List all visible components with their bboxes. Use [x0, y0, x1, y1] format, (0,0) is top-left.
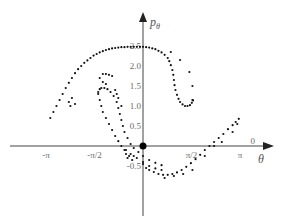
- data-point: [123, 149, 125, 151]
- y-tick-label: 0.5: [130, 121, 142, 131]
- data-point: [142, 161, 144, 163]
- data-point: [173, 84, 175, 86]
- y-axis-label: pθ: [149, 15, 160, 31]
- phase-portrait-chart: -π-π/2π/2π0 2.52.01.51.00.5-0.5 θ pθ: [0, 0, 283, 224]
- data-point: [199, 154, 201, 156]
- data-point: [77, 68, 79, 70]
- data-point: [136, 46, 138, 48]
- series-lower-scattered: [164, 123, 239, 179]
- y-axis-arrow-icon: [139, 12, 147, 22]
- data-point: [177, 98, 179, 100]
- data-point: [100, 105, 102, 107]
- data-point: [125, 153, 127, 155]
- data-point: [108, 74, 110, 76]
- data-point: [189, 104, 191, 106]
- data-point: [221, 141, 223, 143]
- data-point: [191, 85, 193, 87]
- data-point: [168, 60, 170, 62]
- data-point: [102, 50, 104, 52]
- data-point: [184, 105, 186, 107]
- data-point: [218, 137, 220, 139]
- data-point: [102, 111, 104, 113]
- data-point: [142, 46, 144, 48]
- data-point: [213, 145, 215, 147]
- data-point: [97, 91, 99, 93]
- data-point: [222, 133, 224, 135]
- data-point: [154, 162, 156, 164]
- data-point: [52, 111, 54, 113]
- data-point: [191, 169, 193, 171]
- data-point: [119, 113, 121, 115]
- data-point: [173, 79, 175, 81]
- data-point: [194, 158, 196, 160]
- data-point: [170, 64, 172, 66]
- data-point: [58, 99, 60, 101]
- data-point: [68, 82, 70, 84]
- data-point: [102, 73, 104, 75]
- data-point: [123, 131, 125, 133]
- data-point: [164, 54, 166, 56]
- data-point: [171, 69, 173, 71]
- data-point: [116, 93, 118, 95]
- data-point: [130, 46, 132, 48]
- data-point: [99, 51, 101, 53]
- data-point: [204, 155, 206, 157]
- data-point: [182, 173, 184, 175]
- data-point: [120, 105, 122, 107]
- data-point: [128, 155, 130, 157]
- data-point: [133, 46, 135, 48]
- y-axis-label-main: p: [149, 15, 156, 29]
- data-point: [74, 72, 76, 74]
- data-point: [167, 57, 169, 59]
- data-point: [133, 147, 135, 149]
- data-point: [116, 101, 118, 103]
- data-point: [185, 166, 187, 168]
- data-point: [236, 123, 238, 125]
- data-point: [126, 137, 128, 139]
- data-point: [111, 129, 113, 131]
- x-tick-label: -π: [42, 150, 50, 160]
- x-axis-arrow-icon: [263, 142, 274, 150]
- data-point: [238, 118, 240, 120]
- data-point: [68, 101, 70, 103]
- y-axis-label-sub: θ: [156, 22, 160, 31]
- data-point: [160, 169, 162, 171]
- x-axis-end-label: 0: [250, 136, 255, 146]
- x-tick-labels: -π-π/2π/2π0: [42, 136, 255, 160]
- series-lower-arc: [142, 118, 240, 176]
- data-point: [62, 93, 64, 95]
- fixed-point-marker: [140, 143, 147, 150]
- data-point: [133, 155, 135, 157]
- data-point: [108, 123, 110, 125]
- data-point: [186, 105, 188, 107]
- data-point: [172, 74, 174, 76]
- data-point: [105, 49, 107, 51]
- data-point: [235, 121, 237, 123]
- data-point: [137, 151, 139, 153]
- data-point: [151, 47, 153, 49]
- data-point: [55, 105, 57, 107]
- data-point: [170, 51, 172, 53]
- data-point: [181, 169, 183, 171]
- data-point: [126, 157, 128, 159]
- data-point: [176, 171, 178, 173]
- data-point: [120, 119, 122, 121]
- data-point: [154, 167, 156, 169]
- data-point: [123, 46, 125, 48]
- data-point: [83, 62, 85, 64]
- y-tick-label: 2.0: [130, 61, 142, 71]
- data-point: [139, 46, 141, 48]
- data-point: [179, 59, 181, 61]
- data-point: [157, 173, 159, 175]
- data-point: [162, 174, 164, 176]
- data-point: [191, 99, 193, 101]
- data-point: [190, 162, 192, 164]
- data-point: [160, 51, 162, 53]
- data-point: [113, 95, 115, 97]
- data-point: [130, 143, 132, 145]
- data-point: [105, 117, 107, 119]
- x-tick-label: -π/2: [87, 150, 102, 160]
- data-point: [164, 177, 166, 179]
- data-point: [204, 149, 206, 151]
- data-point: [74, 103, 76, 105]
